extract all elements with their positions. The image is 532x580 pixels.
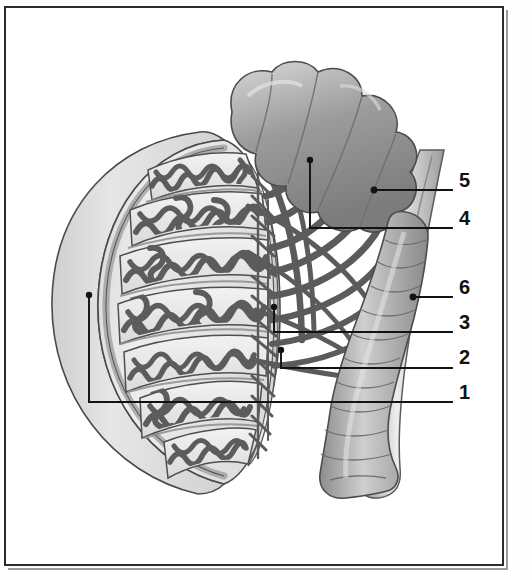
testis-group — [52, 132, 280, 494]
anatomy-illustration — [0, 0, 532, 580]
label-number-3: 3 — [459, 312, 470, 332]
label-number-5: 5 — [459, 170, 470, 190]
leader-dot-3 — [271, 304, 277, 310]
leader-dot-2 — [278, 347, 284, 353]
leader-dot-5 — [371, 187, 378, 194]
label-number-2: 2 — [459, 347, 470, 367]
leader-dot-1 — [86, 292, 92, 298]
leader-dot-6 — [410, 294, 417, 301]
label-number-1: 1 — [459, 382, 470, 402]
figure-canvas: 5 4 6 3 2 1 — [0, 0, 532, 580]
label-number-4: 4 — [459, 208, 470, 228]
leader-dot-4 — [307, 157, 313, 163]
label-number-6: 6 — [459, 277, 470, 297]
